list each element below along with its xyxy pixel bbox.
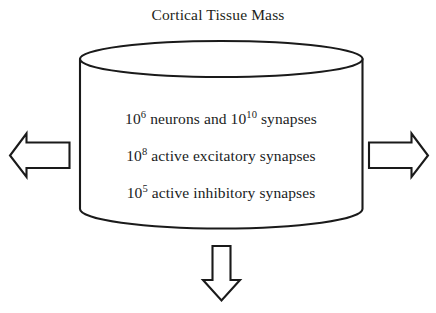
right-arrow-icon (369, 134, 428, 178)
stat-line-2-base: 10 (126, 147, 142, 164)
stat-line-3-mid: active inhibitory synapses (148, 184, 316, 201)
stat-line-3-base: 10 (127, 184, 143, 201)
cylinder-label-group: 106 neurons and 1010 synapses 108 active… (79, 100, 363, 211)
stat-line-2-mid: active excitatory synapses (147, 147, 315, 164)
stat-line-inhibitory-synapses: 105 active inhibitory synapses (79, 174, 363, 211)
diagram-title: Cortical Tissue Mass (0, 6, 436, 24)
stat-line-1-suffix: synapses (257, 110, 317, 127)
stat-line-neurons-synapses: 106 neurons and 1010 synapses (79, 100, 363, 137)
stat-line-excitatory-synapses: 108 active excitatory synapses (79, 137, 363, 174)
diagram-canvas: Cortical Tissue Mass 106 neurons and 101… (0, 0, 436, 313)
stat-line-1-exponent-2: 10 (246, 109, 257, 120)
cylinder-top-ellipse (80, 41, 363, 77)
left-arrow-icon (10, 134, 70, 178)
stat-line-1-base: 10 (125, 110, 141, 127)
down-arrow-icon (203, 246, 240, 301)
stat-line-1-mid: neurons and 10 (146, 110, 246, 127)
